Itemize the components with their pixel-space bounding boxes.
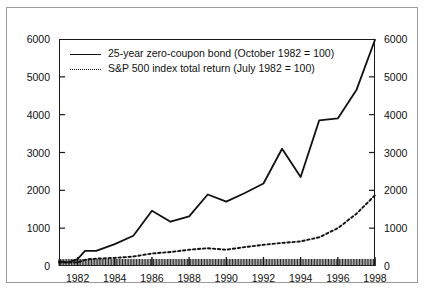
x-axis-tick-label: 1992 bbox=[243, 273, 283, 284]
legend-solid-line-icon bbox=[70, 49, 101, 59]
y-axis-right-tick-label: 3000 bbox=[384, 148, 407, 159]
x-axis-tick-label: 1994 bbox=[281, 273, 321, 284]
x-axis-tick-label: 1984 bbox=[95, 273, 135, 284]
legend-label-sp500: S&P 500 index total return (July 1982 = … bbox=[108, 63, 315, 74]
series-line-sp500 bbox=[59, 195, 375, 262]
x-axis-tick-label: 1982 bbox=[58, 273, 98, 284]
y-axis-left-tick-label: 2000 bbox=[7, 185, 50, 196]
y-axis-left-tick-label: 5000 bbox=[7, 72, 50, 83]
x-axis-tick-label: 1986 bbox=[132, 273, 172, 284]
y-axis-right-tick-label: 1000 bbox=[384, 223, 407, 234]
y-axis-right-tick-label: 5000 bbox=[384, 72, 407, 83]
y-axis-left-tick-label: 3000 bbox=[7, 148, 50, 159]
y-axis-left-tick-label: 6000 bbox=[7, 34, 50, 45]
y-axis-right-tick-label: 6000 bbox=[384, 34, 407, 45]
chart-legend: 25-year zero-coupon bond (October 1982 =… bbox=[70, 46, 320, 76]
figure-panel: 0100020003000400050006000 01000200030004… bbox=[6, 7, 418, 283]
legend-item-sp500: S&P 500 index total return (July 1982 = … bbox=[70, 61, 320, 76]
x-axis-tick-label: 1998 bbox=[355, 273, 395, 284]
legend-item-bond: 25-year zero-coupon bond (October 1982 =… bbox=[70, 46, 320, 61]
y-axis-left-tick-label: 1000 bbox=[7, 223, 50, 234]
y-axis-left-tick-label: 0 bbox=[7, 261, 50, 272]
legend-label-bond: 25-year zero-coupon bond (October 1982 =… bbox=[108, 48, 334, 59]
legend-dotted-line-icon bbox=[70, 64, 101, 74]
x-axis-tick-label: 1990 bbox=[206, 273, 246, 284]
y-axis-right-tick-label: 2000 bbox=[384, 185, 407, 196]
y-axis-right-tick-label: 4000 bbox=[384, 110, 407, 121]
x-axis-tick-label: 1996 bbox=[318, 273, 358, 284]
x-axis-tick-label: 1988 bbox=[169, 273, 209, 284]
y-axis-right-tick-label: 0 bbox=[384, 261, 390, 272]
y-axis-left-tick-label: 4000 bbox=[7, 110, 50, 121]
